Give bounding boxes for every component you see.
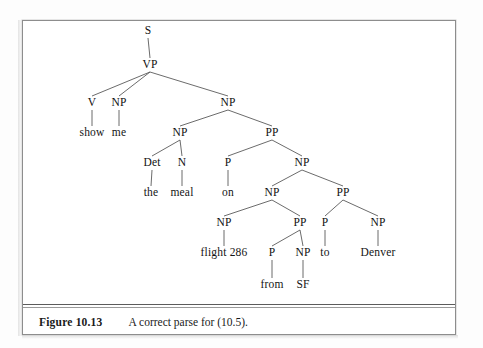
tree-edge-vp-np_obj (150, 72, 228, 96)
tree-edge-np_flt-pp_to (302, 170, 343, 186)
figure-page: SVPVNPNPshowmeNPPPDetNPNPthemealonNPPPNP… (0, 0, 483, 348)
tree-edge-s-vp (148, 38, 150, 58)
tree-edge-pp_on-p_on (228, 140, 272, 156)
figure-caption-label: Figure 10.13 (39, 316, 103, 328)
tree-edge-pp_to-p_to (325, 200, 343, 216)
caption-divider-rule (23, 304, 455, 308)
tree-edge-pp_to-np_denver (343, 200, 378, 216)
tree-edge-np_obj-pp_on (228, 110, 272, 126)
figure-caption: Figure 10.13 A correct parse for (10.5). (23, 309, 455, 334)
tree-edge-np_flt-np_f286 (272, 170, 302, 186)
tree-edge-np_meal-n_meal (180, 140, 182, 156)
tree-edge-np_meal-det (152, 140, 180, 156)
parse-tree-edges (0, 0, 483, 348)
tree-edge-pp_on-np_flt (272, 140, 302, 156)
tree-edge-det-the (151, 170, 152, 186)
tree-edge-np_f286-pp_from (272, 200, 300, 216)
tree-edge-np_f286-np_flight (224, 200, 272, 216)
tree-edge-vp-np_me (119, 72, 150, 96)
figure-caption-text: A correct parse for (10.5). (129, 316, 248, 328)
tree-edge-vp-v (92, 72, 150, 96)
tree-edge-np_obj-np_meal (180, 110, 228, 126)
tree-edge-pp_from-p_from (272, 230, 300, 246)
tree-edge-pp_from-np_sf (300, 230, 303, 246)
